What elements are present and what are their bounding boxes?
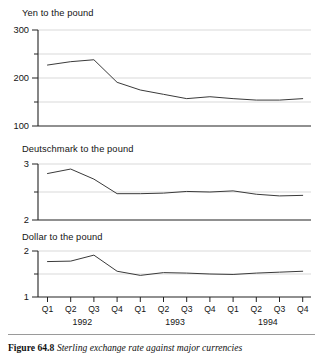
x-tick-label-1: Q2: [65, 304, 77, 314]
x-tick-label-5: Q2: [158, 304, 170, 314]
x-axis-svg: Q1Q2Q3Q4Q1Q2Q3Q4Q1Q2Q3Q4 199219931994: [0, 296, 323, 330]
x-tick-label-7: Q4: [204, 304, 216, 314]
x-tick-label-9: Q2: [251, 304, 263, 314]
x-tick-label-2: Q3: [88, 304, 100, 314]
plot-area-yen: 300 200 100: [0, 8, 323, 136]
x-axis-tickmarks: [48, 297, 303, 302]
ytick-label-usd-2: 2: [24, 246, 29, 256]
x-axis-quarter-labels: Q1Q2Q3Q4Q1Q2Q3Q4Q1Q2Q3Q4: [42, 304, 309, 314]
data-series-yen: [48, 60, 303, 100]
ytick-label-dm-2: 2: [24, 215, 29, 225]
chart-panel-deutschmark: Deutschmark to the pound 3 2: [0, 144, 323, 234]
caption-divider: [8, 334, 315, 335]
caption-label: Figure 64.8: [8, 342, 54, 353]
x-axis-year-1994: 1994: [258, 317, 278, 327]
x-tick-label-10: Q3: [274, 304, 286, 314]
figure-sterling-exchange-rate: Yen to the pound 300 200 100 Deu: [0, 0, 323, 356]
x-tick-label-11: Q4: [297, 304, 309, 314]
ytick-label-yen-200: 200: [13, 73, 29, 83]
figure-caption: Figure 64.8 Sterling exchange rate again…: [8, 342, 318, 353]
x-axis: Q1Q2Q3Q4Q1Q2Q3Q4Q1Q2Q3Q4 199219931994: [0, 296, 323, 330]
x-tick-label-8: Q1: [227, 304, 239, 314]
x-tick-label-3: Q4: [111, 304, 123, 314]
x-axis-year-1993: 1993: [165, 317, 185, 327]
x-tick-label-4: Q1: [135, 304, 147, 314]
ytick-label-yen-300: 300: [13, 25, 29, 35]
x-tick-label-6: Q3: [181, 304, 193, 314]
plot-area-deutschmark: 3 2: [0, 144, 323, 234]
x-axis-year-labels: 199219931994: [73, 317, 278, 327]
x-tick-label-0: Q1: [42, 304, 54, 314]
ytick-label-yen-100: 100: [13, 121, 29, 131]
caption-text: Sterling exchange rate against major cur…: [57, 342, 242, 353]
data-series-dollar: [48, 255, 303, 275]
x-axis-year-1992: 1992: [73, 317, 93, 327]
chart-panel-yen: Yen to the pound 300 200 100: [0, 8, 323, 136]
ytick-label-dm-3: 3: [24, 159, 29, 169]
